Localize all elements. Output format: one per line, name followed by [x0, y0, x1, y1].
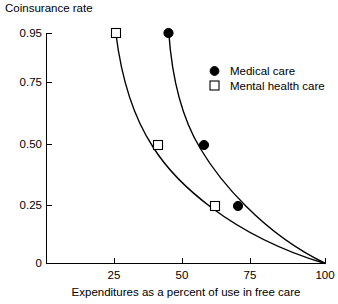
data-point-marker — [112, 29, 121, 38]
x-tick-label: 100 — [315, 269, 334, 281]
legend-marker-open-square-icon — [210, 81, 219, 90]
y-tick-label: 0 — [36, 257, 42, 269]
y-tick-label: 0.95 — [20, 27, 42, 39]
data-point-marker — [199, 140, 208, 149]
data-point-marker — [211, 202, 220, 211]
data-point-marker — [164, 28, 173, 37]
x-tick-label: 50 — [176, 269, 189, 281]
data-point-marker — [233, 201, 242, 210]
x-tick-label: 75 — [244, 269, 257, 281]
x-tick-marks — [115, 258, 326, 264]
x-tick-label: 25 — [108, 269, 121, 281]
y-tick-labels: 0.95 0.75 0.50 0.25 0 — [20, 27, 42, 269]
series-markers-mental-health-care — [112, 29, 220, 211]
legend-marker-filled-circle-icon — [210, 67, 219, 76]
y-tick-label: 0.25 — [20, 199, 42, 211]
chart-canvas: 0.95 0.75 0.50 0.25 0 25 50 75 100 Expen… — [0, 0, 338, 304]
y-tick-label: 0.50 — [20, 138, 42, 150]
legend-label-medical-care: Medical care — [230, 65, 295, 77]
x-axis-title: Expenditures as a percent of use in free… — [72, 286, 301, 298]
y-tick-marks — [47, 34, 53, 206]
data-point-marker — [154, 141, 163, 150]
chart-figure: Coinsurance rate 0.95 0.75 0.50 0.25 0 — [0, 0, 338, 304]
chart-legend: Medical care Mental health care — [210, 65, 325, 92]
series-markers-medical-care — [164, 28, 243, 210]
legend-label-mental-health-care: Mental health care — [230, 80, 325, 92]
x-tick-labels: 25 50 75 100 — [108, 269, 335, 281]
y-tick-label: 0.75 — [20, 76, 42, 88]
